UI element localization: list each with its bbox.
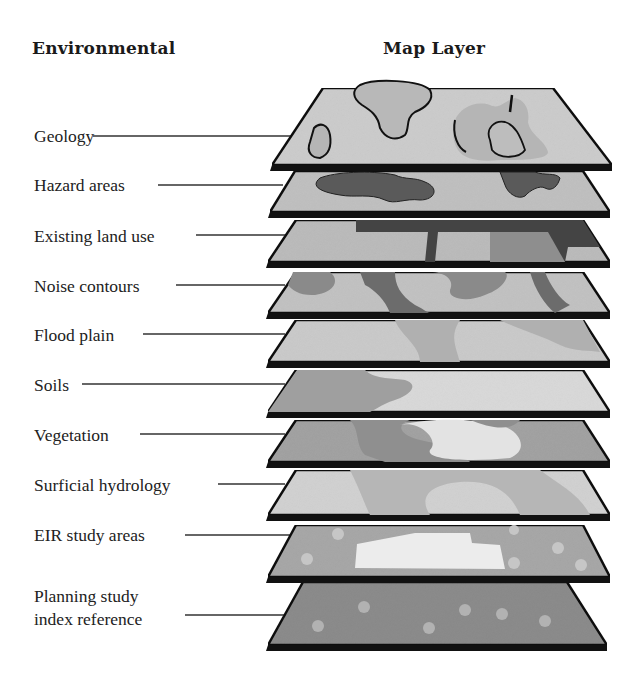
layer-soils: [266, 370, 610, 418]
layer-geology: [270, 81, 612, 171]
layer-noise-contours: [266, 272, 610, 319]
connector-lines: [82, 136, 295, 615]
layer-eir-study-areas: [266, 525, 610, 583]
layer-surficial-hydrology: [266, 470, 610, 521]
layer-flood-plain: [266, 320, 610, 368]
layer-vegetation: [266, 420, 610, 468]
layer-existing-land-use: [266, 220, 610, 268]
layer-hazard-areas: [268, 171, 610, 218]
layer-planning-study-index-reference: [266, 582, 607, 651]
map-layer-stack: [0, 0, 636, 674]
